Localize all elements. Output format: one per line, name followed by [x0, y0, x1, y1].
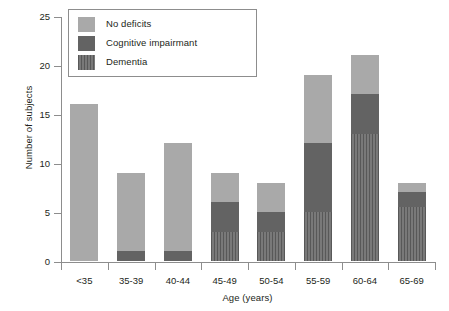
- bar-segment-dementia-3[interactable]: [211, 232, 239, 261]
- y-tick-label-0: 0: [45, 256, 50, 267]
- x-tick-label-1: 35-39: [108, 275, 155, 286]
- bar-group-6[interactable]: [351, 55, 379, 261]
- x-tick-label-2: 40-44: [155, 275, 202, 286]
- x-tick-1: [108, 262, 109, 270]
- y-tick-label-15: 15: [39, 109, 50, 120]
- bar-group-2[interactable]: [164, 143, 192, 261]
- bar-segment-cognitive-impairmant-4[interactable]: [257, 212, 285, 232]
- legend-swatch-no-deficits: [78, 17, 95, 32]
- chart-figure: Number of subjects Age (years) 051015202…: [0, 0, 449, 311]
- legend-label-cognitive-impairmant: Cognitive impairmant: [106, 37, 197, 48]
- y-tick-20: 20: [54, 66, 61, 67]
- y-tick-label-25: 25: [39, 11, 50, 22]
- x-axis-title: Age (years): [60, 292, 435, 303]
- x-tick-4: [248, 262, 249, 270]
- y-tick-label-5: 5: [45, 207, 50, 218]
- bar-segment-cognitive-impairmant-7[interactable]: [398, 192, 426, 207]
- bar-segment-cognitive-impairmant-5[interactable]: [304, 143, 332, 212]
- y-tick-10: 10: [54, 164, 61, 165]
- y-axis-title: Number of subjects: [23, 38, 34, 218]
- bar-segment-no-deficits-7[interactable]: [398, 183, 426, 193]
- bar-segment-dementia-6[interactable]: [351, 134, 379, 261]
- bar-segment-no-deficits-2[interactable]: [164, 143, 192, 251]
- bar-group-3[interactable]: [211, 173, 239, 261]
- y-tick-label-10: 10: [39, 158, 50, 169]
- y-axis-line: [61, 17, 62, 263]
- bar-segment-no-deficits-5[interactable]: [304, 75, 332, 144]
- x-tick-6: [342, 262, 343, 270]
- legend-swatch-dementia: [78, 55, 95, 70]
- y-tick-0: 0: [54, 262, 61, 263]
- x-tick-label-4: 50-54: [248, 275, 295, 286]
- x-tick-3: [201, 262, 202, 270]
- bar-segment-dementia-5[interactable]: [304, 212, 332, 261]
- bar-group-4[interactable]: [257, 183, 285, 261]
- x-tick-label-6: 60-64: [342, 275, 389, 286]
- legend-swatch-cognitive-impairmant: [78, 36, 95, 51]
- x-tick-label-7: 65-69: [388, 275, 435, 286]
- bar-group-5[interactable]: [304, 75, 332, 261]
- bar-segment-cognitive-impairmant-3[interactable]: [211, 202, 239, 231]
- bar-group-1[interactable]: [117, 173, 145, 261]
- bar-segment-no-deficits-4[interactable]: [257, 183, 285, 212]
- bar-group-7[interactable]: [398, 183, 426, 261]
- x-tick-2: [155, 262, 156, 270]
- x-tick-label-0: <35: [61, 275, 108, 286]
- chart-legend: No deficitsCognitive impairmantDementia: [68, 9, 257, 77]
- bar-segment-no-deficits-6[interactable]: [351, 55, 379, 94]
- bar-segment-dementia-7[interactable]: [398, 207, 426, 261]
- x-tick-0: [61, 262, 62, 270]
- legend-label-no-deficits: No deficits: [106, 18, 151, 29]
- y-tick-5: 5: [54, 213, 61, 214]
- bar-segment-cognitive-impairmant-2[interactable]: [164, 251, 192, 261]
- bar-segment-dementia-4[interactable]: [257, 232, 285, 261]
- y-tick-25: 25: [54, 17, 61, 18]
- y-tick-label-20: 20: [39, 60, 50, 71]
- bar-segment-cognitive-impairmant-1[interactable]: [117, 251, 145, 261]
- legend-label-dementia: Dementia: [106, 56, 147, 67]
- x-tick-7: [388, 262, 389, 270]
- bar-segment-no-deficits-0[interactable]: [70, 104, 98, 261]
- bar-segment-no-deficits-1[interactable]: [117, 173, 145, 251]
- y-tick-15: 15: [54, 115, 61, 116]
- x-tick-label-3: 45-49: [201, 275, 248, 286]
- x-tick-8: [435, 262, 436, 270]
- x-tick-label-5: 55-59: [295, 275, 342, 286]
- x-tick-5: [295, 262, 296, 270]
- bar-segment-no-deficits-3[interactable]: [211, 173, 239, 202]
- bar-group-0[interactable]: [70, 104, 98, 261]
- bar-segment-cognitive-impairmant-6[interactable]: [351, 94, 379, 133]
